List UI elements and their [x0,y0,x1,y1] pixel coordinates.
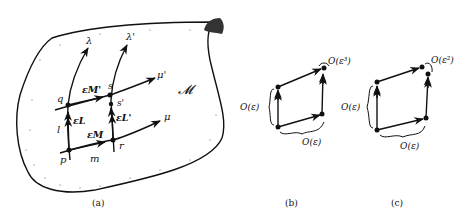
c-bottom-label: O(ε) [400,141,420,151]
point-s [108,93,113,98]
panel-c: O(ε²) O(ε) O(ε) (c) [341,55,454,208]
panel-a: λ λ' μ μ' p q r s s' l m εL εM εL' εM' 𝓜… [17,18,224,208]
label-m: m [90,153,99,164]
label-s: s [108,80,113,91]
label-eM-prime: εM' [82,84,101,95]
point-r [111,138,116,143]
b-corner-br [320,112,325,117]
label-manifold: 𝓜 [178,82,197,97]
c-side-label: O(ε) [341,102,361,112]
label-eL-prime: εL' [116,112,131,123]
c-corner-bl [375,128,380,133]
b-top-edge [278,69,321,87]
b-bottom-edge [278,115,320,127]
point-q [66,103,71,108]
caption-b: (b) [285,198,298,208]
manifold-curl [204,18,224,34]
c-side-brace [367,86,373,128]
label-lambda-prime: λ' [125,31,135,42]
point-s-prime [109,102,113,106]
label-r: r [119,140,125,151]
point-p [67,148,72,153]
vector-eL-prime-2 [111,108,112,120]
label-p: p [60,154,67,165]
b-bottom-label: O(ε) [302,137,322,147]
b-side-label: O(ε) [240,102,260,112]
label-mu: μ [164,111,171,122]
panel-b: O(ε³) O(ε) O(ε) (b) [240,56,351,208]
b-corner-bl [276,125,281,130]
label-s-prime: s' [117,98,124,108]
label-l: l [57,124,60,135]
c-gap-label: O(ε²) [431,55,454,65]
c-corner-tr-b [426,72,431,77]
b-bottom-brace [280,122,324,134]
caption-c: (c) [391,198,403,208]
b-side-brace [269,89,274,125]
label-eL: εL [73,115,86,126]
label-q: q [57,93,63,104]
vector-eM [69,142,105,150]
c-bottom-edge [377,119,423,130]
c-corner-tl [375,80,380,85]
b-gap-label: O(ε³) [328,56,351,66]
c-corner-tr-a [420,65,425,70]
b-corner-tr [322,66,327,71]
label-lambda: λ [85,35,92,46]
caption-a: (a) [92,198,104,208]
b-corner-tl [276,85,281,90]
vector-eM-prime [68,97,103,105]
c-top-edge [377,68,419,82]
label-mu-prime: μ' [157,69,166,80]
label-eM: εM [87,129,104,140]
figure: λ λ' μ μ' p q r s s' l m εL εM εL' εM' 𝓜… [0,0,472,220]
c-corner-br [424,116,429,121]
